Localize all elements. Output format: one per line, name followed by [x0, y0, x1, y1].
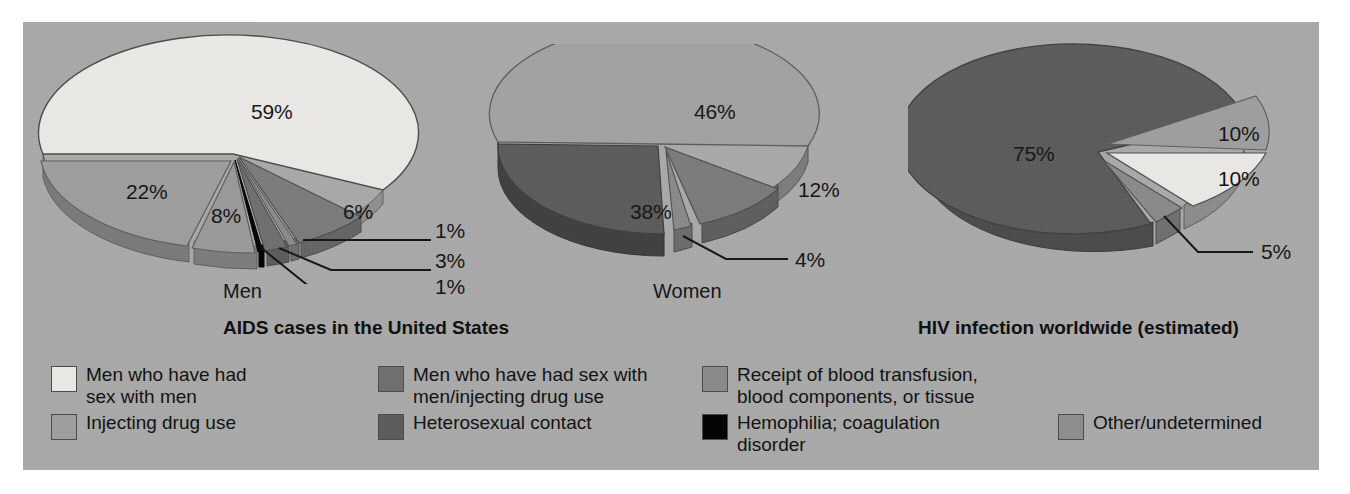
pie-chart-hiv-worldwide	[908, 40, 1308, 290]
legend-item-heterosexual[interactable]: Heterosexual contact	[378, 412, 592, 440]
legend-label-idu: Injecting drug use	[86, 412, 236, 434]
legend-label-heterosexual: Heterosexual contact	[413, 412, 592, 434]
charts-area: 59% 22% 8% 6% 1% 3% 1% Men AIDS cases in…	[23, 22, 1319, 342]
pie1-label-59: 59%	[251, 100, 292, 124]
legend-swatch-msm	[51, 366, 77, 392]
legend-label-other: Other/undetermined	[1093, 412, 1262, 434]
chart-title-us: AIDS cases in the United States	[223, 317, 509, 339]
pie1-label-8: 8%	[211, 204, 241, 228]
pie2-label-46: 46%	[694, 100, 735, 124]
legend-swatch-transfusion	[702, 366, 728, 392]
legend-label-msm-idu: Men who have had sex with men/injecting …	[413, 364, 647, 408]
pie3-label-10-idu: 10%	[1218, 122, 1259, 146]
pie2-label-12: 12%	[798, 178, 839, 202]
legend-label-hemophilia: Hemophilia; coagulation disorder	[737, 412, 940, 456]
pie-chart-aids-men	[31, 34, 451, 284]
pie3-label-75: 75%	[1013, 142, 1054, 166]
legend-item-msm-idu[interactable]: Men who have had sex with men/injecting …	[378, 364, 647, 408]
figure-root: 59% 22% 8% 6% 1% 3% 1% Men AIDS cases in…	[0, 0, 1350, 494]
legend-label-transfusion: Receipt of blood transfusion, blood comp…	[737, 364, 978, 408]
legend-swatch-msm-idu	[378, 366, 404, 392]
legend-item-transfusion[interactable]: Receipt of blood transfusion, blood comp…	[702, 364, 978, 408]
pie1-label-1-hemophilia: 1%	[435, 275, 465, 299]
pie2-label-38: 38%	[630, 200, 671, 224]
legend-swatch-hemophilia	[702, 414, 728, 440]
chart-title-world: HIV infection worldwide (estimated)	[918, 317, 1239, 339]
figure-panel: 59% 22% 8% 6% 1% 3% 1% Men AIDS cases in…	[23, 22, 1319, 470]
pie2-sublabel-women: Women	[653, 280, 722, 303]
legend-swatch-other	[1058, 414, 1084, 440]
pie3-label-10-msm: 10%	[1218, 167, 1259, 191]
legend: Men who have had sex with men Injecting …	[23, 340, 1319, 470]
legend-swatch-idu	[51, 414, 77, 440]
callout-line-4pct-women	[683, 236, 788, 259]
pie1-sublabel-men: Men	[223, 280, 262, 303]
legend-swatch-heterosexual	[378, 414, 404, 440]
legend-item-other[interactable]: Other/undetermined	[1058, 412, 1262, 440]
legend-item-hemophilia[interactable]: Hemophilia; coagulation disorder	[702, 412, 940, 456]
pie1-label-1-transfusion: 1%	[435, 219, 465, 243]
pie1-label-6: 6%	[343, 200, 373, 224]
slice-top-idu-women	[489, 44, 819, 146]
legend-label-msm: Men who have had sex with men	[86, 364, 247, 408]
pie1-label-22: 22%	[126, 180, 167, 204]
legend-item-idu[interactable]: Injecting drug use	[51, 412, 236, 440]
pie3-label-5: 5%	[1261, 240, 1291, 264]
pie1-label-3: 3%	[435, 249, 465, 273]
pie2-label-4: 4%	[795, 248, 825, 272]
legend-item-msm[interactable]: Men who have had sex with men	[51, 364, 247, 408]
